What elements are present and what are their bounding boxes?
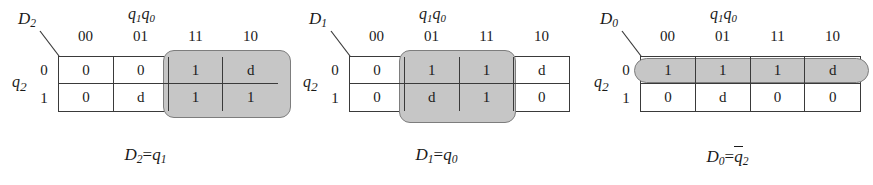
karnaugh-map-d1: D1 q1q0 00 01 11 10 q2 0 1 0 1 1 d 0 d 1… [291, 0, 582, 185]
formula-rhs-base: q [443, 145, 452, 164]
cell-r0-c10: d [514, 57, 569, 84]
row-header-1: 1 [618, 91, 634, 106]
cell-r1-c01: d [696, 84, 751, 111]
cell-r1-c00: 0 [59, 84, 114, 111]
formula-lhs-base: D [125, 145, 137, 164]
column-variable-label: q1q0 [419, 6, 446, 24]
cell-r1-c11: 0 [751, 84, 806, 111]
corner-variable-sub: 2 [30, 17, 36, 30]
column-header-11: 11 [459, 29, 514, 44]
formula-rhs-sub: 0 [452, 153, 458, 166]
corner-variable-base: D [309, 9, 321, 28]
column-header-01: 01 [695, 29, 750, 44]
cell-r0-c00: 1 [641, 57, 696, 84]
cell-r1-c01: d [114, 84, 169, 111]
row-variable-base: q [303, 73, 311, 90]
cell-r0-c00: 0 [59, 57, 114, 84]
column-header-11: 11 [750, 29, 805, 44]
formula-rhs-base: q [152, 145, 161, 164]
cell-r1-c01: d [405, 84, 460, 111]
row-variable-sub: 2 [20, 79, 27, 94]
row-variable-label: q2 [594, 74, 609, 94]
row-header-0: 0 [36, 63, 52, 78]
row-header-1: 1 [327, 91, 343, 106]
column-header-10: 10 [514, 29, 569, 44]
cell-r0-c11: 1 [751, 57, 806, 84]
formula-d2: D2=q1 [0, 146, 291, 166]
cell-r0-c01: 1 [696, 57, 751, 84]
row-variable-base: q [12, 73, 20, 90]
row-header-0: 0 [327, 63, 343, 78]
column-header-01: 01 [113, 29, 168, 44]
corner-variable-sub: 0 [612, 17, 618, 30]
column-header-00: 00 [640, 29, 695, 44]
formula-rhs-base: q [734, 147, 743, 166]
cell-r1-c11: 1 [169, 84, 224, 111]
formula-d0: D0=q2 [582, 146, 873, 168]
row-header-0: 0 [618, 63, 634, 78]
row-variable-sub: 2 [311, 79, 318, 94]
column-header-10: 10 [223, 29, 278, 44]
formula-operator: = [725, 147, 735, 166]
formula-rhs-sub: 1 [161, 153, 167, 166]
column-variable-base-1: q [710, 5, 718, 22]
column-header-11: 11 [168, 29, 223, 44]
kmap-grid: 0 1 1 d 0 d 1 0 [349, 56, 570, 112]
cell-r0-c01: 1 [405, 57, 460, 84]
cell-r0-c10: d [223, 57, 278, 84]
cell-r1-c10: 0 [514, 84, 569, 111]
column-header-00: 00 [349, 29, 404, 44]
formula-rhs-overbar: q [734, 146, 743, 165]
cell-r1-c10: 0 [805, 84, 860, 111]
formula-operator: = [143, 145, 153, 164]
formula-rhs-sub: 2 [743, 155, 749, 168]
column-variable-sub-2: 0 [440, 12, 445, 24]
cell-r1-c00: 0 [350, 84, 405, 111]
cell-r0-c11: 1 [460, 57, 515, 84]
column-variable-sub-2: 0 [731, 12, 736, 24]
cell-r1-c00: 0 [641, 84, 696, 111]
column-variable-base-1: q [128, 5, 136, 22]
cell-r0-c00: 0 [350, 57, 405, 84]
column-variable-label: q1q0 [128, 6, 155, 24]
row-variable-label: q2 [303, 74, 318, 94]
column-header-01: 01 [404, 29, 459, 44]
column-variable-base-1: q [419, 5, 427, 22]
cell-r0-c01: 0 [114, 57, 169, 84]
row-header-1: 1 [36, 91, 52, 106]
column-header-00: 00 [58, 29, 113, 44]
column-variable-sub-2: 0 [149, 12, 154, 24]
kmap-grid: 1 1 1 d 0 d 0 0 [640, 56, 861, 112]
corner-variable-base: D [600, 9, 612, 28]
column-variable-label: q1q0 [710, 6, 737, 24]
corner-variable-label-d1: D1 [309, 10, 327, 30]
cell-r0-c11: 1 [169, 57, 224, 84]
karnaugh-map-d2: D2 q1q0 00 01 11 10 q2 0 1 0 0 1 d 0 d 1… [0, 0, 291, 185]
formula-lhs-base: D [416, 145, 428, 164]
cell-r1-c11: 1 [460, 84, 515, 111]
formula-operator: = [434, 145, 444, 164]
corner-variable-label-d0: D0 [600, 10, 618, 30]
karnaugh-map-d0: D0 q1q0 00 01 11 10 q2 0 1 1 1 1 d 0 d 0… [582, 0, 873, 185]
corner-variable-base: D [18, 9, 30, 28]
column-header-10: 10 [805, 29, 860, 44]
cell-r0-c10: d [805, 57, 860, 84]
kmap-grid: 0 0 1 d 0 d 1 1 [58, 56, 279, 112]
row-variable-label: q2 [12, 74, 27, 94]
row-variable-sub: 2 [602, 79, 609, 94]
corner-variable-label-d2: D2 [18, 10, 36, 30]
row-variable-base: q [594, 73, 602, 90]
cell-r1-c10: 1 [223, 84, 278, 111]
formula-d1: D1=q0 [291, 146, 582, 166]
corner-variable-sub: 1 [321, 17, 327, 30]
formula-lhs-base: D [707, 147, 719, 166]
